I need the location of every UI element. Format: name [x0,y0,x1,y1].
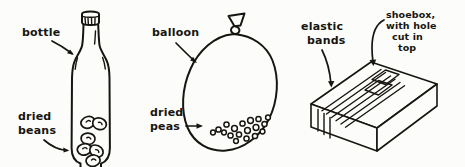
pea-icon [262,121,267,126]
pea-icon [253,125,259,131]
balloon-figure: balloon dried peas [150,14,277,151]
pea-icon [228,133,233,138]
pea-icon [248,118,254,124]
pea-icon [224,122,229,127]
label-balloon: balloon [152,26,199,39]
bean-icon [86,154,101,167]
label-shoebox-line1: shoebox, [386,9,435,20]
pea-icon [240,121,245,126]
arrow-elastic-bands [322,50,334,88]
pea-icon [245,128,251,134]
arrow-bottle [52,41,74,55]
dried-beans-group [76,115,108,167]
bottle-figure: bottle dried beans [18,11,110,167]
label-shoebox-line3: cut in [392,31,423,42]
balloon-knot-icon [229,14,245,34]
bottle-cap-icon [82,11,99,25]
pea-icon [244,136,249,141]
pea-icon [256,116,261,121]
label-dried-peas-line1: dried [150,106,183,119]
label-elastic-bands-line2: bands [307,34,346,47]
dried-peas-group [211,115,271,143]
pea-icon [236,132,241,137]
label-dried-peas-line2: peas [150,120,180,133]
arrow-dried-beans [44,140,69,152]
shoebox-figure: elastic bands shoebox, with hole cut in … [301,9,437,151]
pea-icon [234,139,239,144]
pea-icon [252,133,257,138]
pea-icon [211,130,216,135]
illustration-canvas: bottle dried beans [0,0,465,167]
label-dried-beans-line1: dried [18,110,51,123]
pea-icon [232,126,238,132]
arrow-balloon [176,43,197,63]
pea-icon [260,129,265,134]
label-elastic-bands-line1: elastic [301,20,343,33]
label-shoebox-line4: top [398,42,416,53]
pea-icon [266,115,271,120]
label-bottle: bottle [22,26,60,39]
label-shoebox-line2: with hole [386,20,437,31]
pea-icon [222,130,227,135]
pea-icon [216,127,221,132]
label-dried-beans-line2: beans [18,124,56,137]
arrow-shoebox [370,20,385,66]
